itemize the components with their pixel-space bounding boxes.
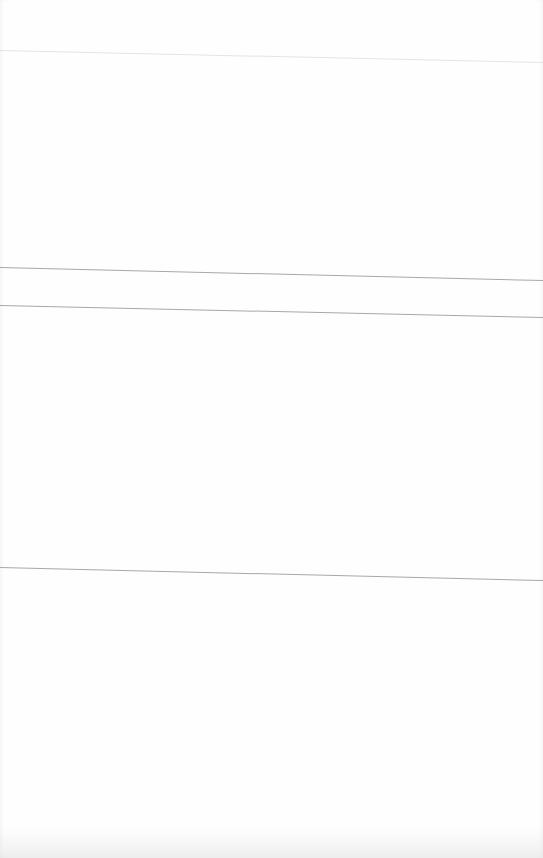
upper-block <box>0 62 543 267</box>
narrow-band <box>0 280 543 305</box>
blank-document-page <box>0 0 543 858</box>
middle-block <box>0 317 543 567</box>
header-band <box>0 0 543 50</box>
lower-block <box>0 580 543 858</box>
scan-edge-shading <box>0 828 543 858</box>
